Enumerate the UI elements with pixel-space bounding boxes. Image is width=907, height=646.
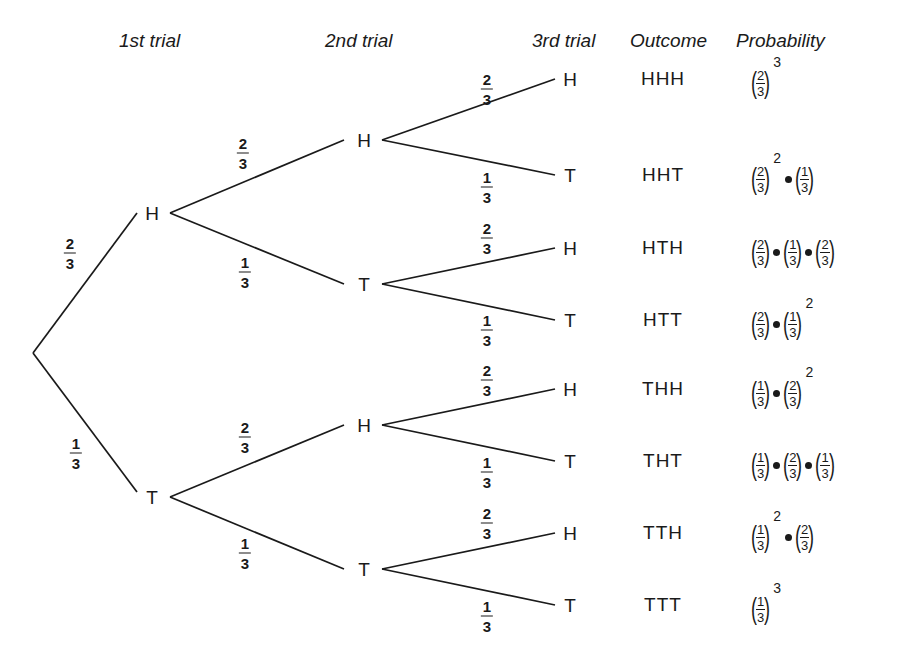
probability-expression: (13)(23)2 bbox=[752, 378, 813, 408]
branch-level1 bbox=[33, 353, 137, 492]
outcome-label: TTT bbox=[644, 594, 682, 616]
branch-probability-label: 23 bbox=[481, 221, 493, 256]
multiply-dot-icon bbox=[805, 462, 812, 469]
node-level2-t: T bbox=[358, 560, 370, 579]
branch-level1 bbox=[33, 213, 137, 353]
probability-expression: (23)(13)2 bbox=[752, 309, 813, 339]
branch-probability-label: 23 bbox=[239, 420, 251, 455]
branch-probability-label: 23 bbox=[481, 72, 493, 107]
node-level2-h: H bbox=[357, 131, 371, 150]
branch-probability-label: 13 bbox=[481, 313, 493, 348]
node-level1-t: T bbox=[146, 488, 158, 507]
branch-level3 bbox=[382, 389, 555, 425]
multiply-dot-icon bbox=[773, 321, 780, 328]
node-level2-h: H bbox=[357, 416, 371, 435]
multiply-dot-icon bbox=[773, 390, 780, 397]
node-level3-h: H bbox=[563, 70, 577, 89]
outcome-label: TTH bbox=[643, 522, 683, 544]
probability-expression: (13)(23)(13) bbox=[752, 450, 834, 480]
node-level3-h: H bbox=[563, 380, 577, 399]
branch-probability-label: 13 bbox=[70, 436, 82, 471]
branch-level3 bbox=[382, 533, 555, 569]
probability-expression: (13)3 bbox=[752, 594, 781, 624]
branch-level3 bbox=[382, 79, 555, 140]
outcome-label: HTT bbox=[643, 309, 683, 331]
branch-level3 bbox=[382, 425, 555, 461]
outcome-label: HTH bbox=[642, 237, 684, 259]
multiply-dot-icon bbox=[805, 249, 812, 256]
node-level1-h: H bbox=[145, 204, 159, 223]
branch-level3 bbox=[382, 569, 555, 605]
branch-probability-label: 13 bbox=[481, 599, 493, 634]
outcome-label: THH bbox=[642, 378, 684, 400]
branch-probability-label: 13 bbox=[481, 455, 493, 490]
node-level3-h: H bbox=[563, 524, 577, 543]
branch-level3 bbox=[382, 284, 555, 320]
branch-level3 bbox=[382, 248, 555, 284]
branch-level3 bbox=[382, 140, 555, 175]
branch-level2 bbox=[170, 425, 344, 497]
node-level3-t: T bbox=[564, 596, 576, 615]
outcome-label: HHH bbox=[641, 68, 685, 90]
node-level3-t: T bbox=[564, 166, 576, 185]
node-level3-t: T bbox=[564, 452, 576, 471]
branch-probability-label: 23 bbox=[481, 506, 493, 541]
branch-probability-label: 23 bbox=[481, 363, 493, 398]
probability-expression: (13)2(23) bbox=[752, 522, 813, 552]
multiply-dot-icon bbox=[785, 176, 792, 183]
branch-level2 bbox=[170, 497, 344, 569]
probability-expression: (23)3 bbox=[752, 68, 781, 98]
outcome-label: HHT bbox=[642, 164, 684, 186]
multiply-dot-icon bbox=[773, 462, 780, 469]
branch-probability-label: 13 bbox=[481, 170, 493, 205]
branch-level2 bbox=[170, 213, 344, 284]
outcome-label: THT bbox=[643, 450, 683, 472]
branch-probability-label: 23 bbox=[64, 236, 76, 271]
probability-expression: (23)(13)(23) bbox=[752, 237, 834, 267]
multiply-dot-icon bbox=[785, 534, 792, 541]
branch-probability-label: 13 bbox=[239, 536, 251, 571]
multiply-dot-icon bbox=[773, 249, 780, 256]
node-level3-t: T bbox=[564, 311, 576, 330]
probability-expression: (23)2(13) bbox=[752, 164, 813, 194]
node-level3-h: H bbox=[563, 239, 577, 258]
branch-level2 bbox=[170, 140, 344, 213]
branch-probability-label: 13 bbox=[239, 255, 251, 290]
node-level2-t: T bbox=[358, 275, 370, 294]
branch-probability-label: 23 bbox=[237, 136, 249, 171]
